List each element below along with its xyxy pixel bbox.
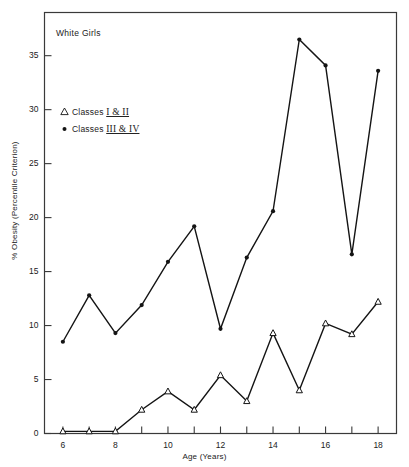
- data-point-circle: [166, 260, 170, 264]
- data-point-circle: [140, 303, 144, 307]
- series-2: [61, 37, 380, 343]
- series-line: [63, 39, 378, 341]
- y-tick-label: 5: [17, 374, 39, 384]
- chart-canvas: [0, 0, 409, 467]
- y-tick-label: 35: [17, 50, 39, 60]
- data-point-circle: [376, 69, 380, 73]
- x-tick-label: 8: [103, 440, 127, 450]
- legend-label-classes-3-4: Classes III & IV: [72, 124, 139, 134]
- data-point-triangle: [217, 372, 223, 378]
- data-series-group: [60, 37, 381, 433]
- y-tick-label: 25: [17, 158, 39, 168]
- data-point-triangle: [139, 406, 145, 412]
- data-point-circle: [245, 255, 249, 259]
- data-point-triangle: [296, 387, 302, 393]
- x-tick-label: 10: [156, 440, 180, 450]
- triangle-marker-icon: [56, 107, 72, 116]
- data-point-triangle: [322, 320, 328, 326]
- data-point-circle: [61, 340, 65, 344]
- series-line: [63, 302, 378, 432]
- y-tick-label: 30: [17, 104, 39, 114]
- circle-marker-icon: [56, 124, 72, 133]
- x-tick-label: 14: [261, 440, 285, 450]
- data-point-circle: [87, 293, 91, 297]
- obesity-by-age-chart: White Girls Classes I & II Classes III &…: [0, 0, 409, 467]
- data-point-circle: [297, 37, 301, 41]
- legend-item-classes-3-4: Classes III & IV: [56, 120, 139, 137]
- x-axis-title: Age (Years): [0, 452, 409, 461]
- legend-label-classes-1-2: Classes I & II: [72, 107, 129, 117]
- data-point-circle: [192, 224, 196, 228]
- series-1: [60, 298, 381, 433]
- chart-legend: Classes I & II Classes III & IV: [56, 103, 139, 137]
- data-point-circle: [113, 331, 117, 335]
- chart-title: White Girls: [56, 28, 101, 38]
- x-tick-label: 12: [209, 440, 233, 450]
- legend-item-classes-1-2: Classes I & II: [56, 103, 139, 120]
- data-point-triangle: [165, 388, 171, 394]
- data-point-circle: [271, 209, 275, 213]
- y-tick-label: 0: [17, 428, 39, 438]
- data-point-circle: [218, 327, 222, 331]
- data-point-triangle: [270, 330, 276, 336]
- data-point-circle: [323, 63, 327, 67]
- y-tick-label: 10: [17, 320, 39, 330]
- x-tick-label: 18: [366, 440, 390, 450]
- x-axis-ticks: [63, 427, 378, 434]
- data-point-triangle: [375, 298, 381, 304]
- plot-frame: [45, 13, 397, 434]
- y-axis-title: % Obesity (Percentile Criterion): [10, 121, 19, 281]
- x-tick-label: 6: [51, 440, 75, 450]
- data-point-circle: [350, 252, 354, 256]
- y-axis-ticks: [45, 56, 52, 434]
- y-tick-label: 15: [17, 266, 39, 276]
- y-tick-label: 20: [17, 212, 39, 222]
- x-tick-label: 16: [314, 440, 338, 450]
